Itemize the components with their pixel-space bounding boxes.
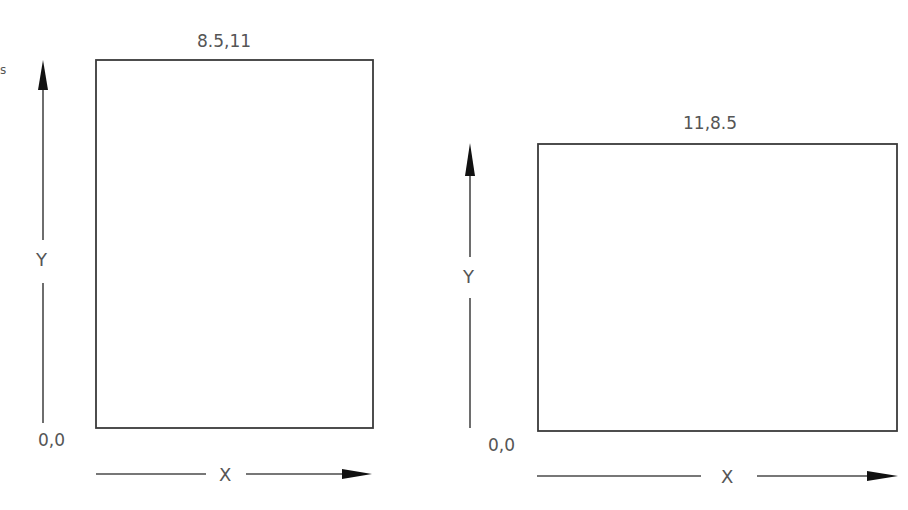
portrait-page-rect [96, 60, 373, 428]
landscape-y-axis: Y [462, 143, 475, 428]
portrait-page-figure: Y 8.5,11 0,0 X [35, 31, 373, 485]
right-arrow-icon [342, 469, 372, 479]
landscape-x-axis: X [537, 466, 898, 487]
landscape-page-rect [538, 144, 897, 431]
portrait-x-axis-label: X [219, 464, 231, 485]
portrait-y-axis-label: Y [35, 249, 48, 270]
up-arrow-icon [38, 60, 48, 90]
portrait-x-axis: X [96, 464, 372, 485]
portrait-y-axis: Y [35, 60, 48, 423]
landscape-y-axis-label: Y [462, 266, 475, 287]
stray-mark: s [0, 63, 6, 77]
landscape-page-figure: Y 11,8.5 0,0 X [462, 113, 898, 487]
up-arrow-icon [465, 143, 475, 176]
page-orientation-diagram: s Y 8.5,11 0,0 X Y 11, [0, 0, 908, 510]
portrait-origin-label: 0,0 [38, 430, 65, 450]
landscape-corner-label: 11,8.5 [683, 113, 737, 133]
portrait-corner-label: 8.5,11 [197, 31, 251, 51]
landscape-origin-label: 0,0 [488, 435, 515, 455]
right-arrow-icon [867, 471, 898, 481]
landscape-x-axis-label: X [721, 466, 733, 487]
